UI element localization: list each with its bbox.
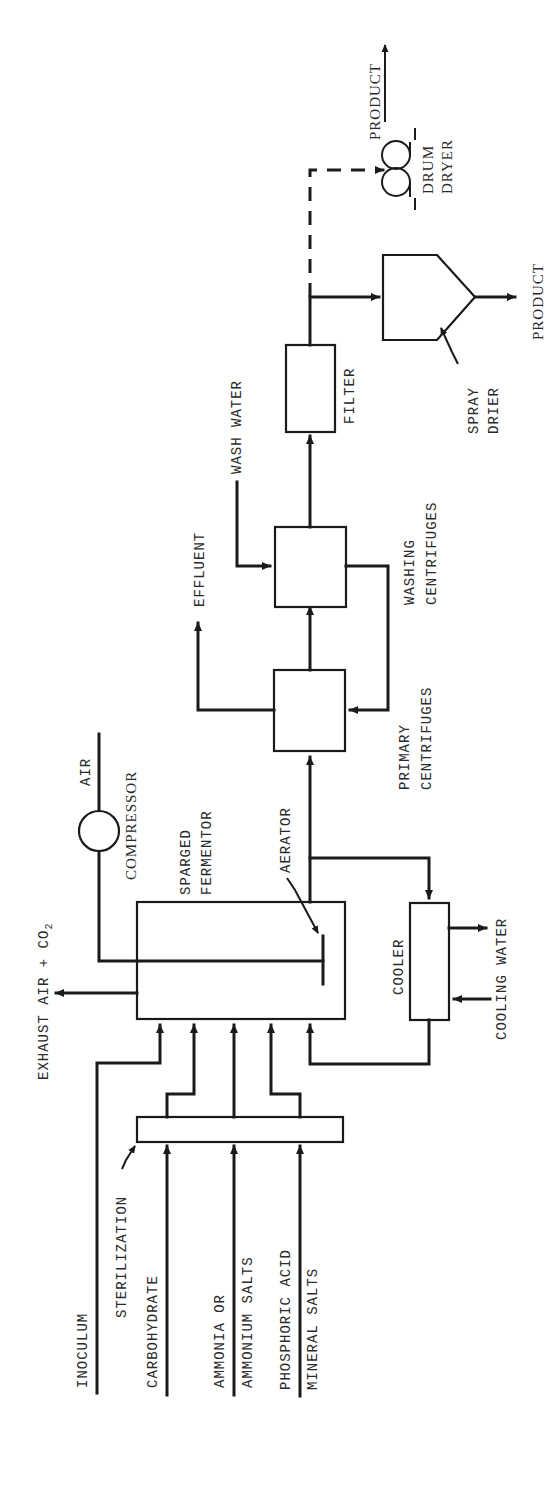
label-drier: DRIER <box>486 387 502 434</box>
label-cooler: COOLER <box>391 939 407 995</box>
label-carbohydrate: CARBOHYDRATE <box>145 1275 161 1388</box>
label-washing-centrifuges: CENTRIFUGES <box>424 502 440 605</box>
sterilization-unit <box>137 1117 343 1142</box>
cooling-water-lines <box>449 928 490 999</box>
label-washing: WASHING <box>402 539 418 605</box>
label-wash-water: WASH WATER <box>229 380 245 474</box>
spray-drier-leader <box>441 328 458 364</box>
label-sterilization: STERILIZATION <box>114 1196 130 1318</box>
filter <box>286 345 335 432</box>
label-aerator: AERATOR <box>278 807 294 873</box>
filter-to-drum-dryer-dashed-line <box>310 170 383 297</box>
cooler-return-line <box>310 1020 429 1064</box>
washing-recycle-line <box>346 566 388 710</box>
effluent-line <box>198 623 274 710</box>
label-compressor: COMPRESSOR <box>123 771 139 880</box>
primary-centrifuges <box>274 670 345 751</box>
spray-drier <box>383 255 475 340</box>
label-spray: SPRAY <box>466 387 482 434</box>
label-effluent: EFFLUENT <box>192 532 208 607</box>
label-dryer: DRYER <box>439 139 455 194</box>
cooler <box>410 903 449 1020</box>
label-primary-centrifuges: CENTRIFUGES <box>419 687 435 790</box>
label-ammonium-salts: AMMONIUM SALTS <box>240 1256 256 1388</box>
label-sparged: SPARGED <box>178 829 194 895</box>
label-product-spray: PRODUCT <box>530 263 546 340</box>
label-drum: DRUM <box>420 145 436 194</box>
label-exhaust: EXHAUST AIR + CO2 <box>36 923 55 1080</box>
sterilized-feed-lines <box>167 1025 300 1117</box>
sterilization-leader <box>122 1146 135 1169</box>
filter-to-drier-line <box>310 297 379 345</box>
label-product-drum: PRODUCT <box>367 63 383 140</box>
label-filter: FILTER <box>342 368 358 424</box>
label-air: AIR <box>78 758 94 786</box>
drum-dryer <box>382 128 415 210</box>
label-ammonia-or: AMMONIA OR <box>212 1294 228 1388</box>
label-cooling-water: COOLING WATER <box>494 918 510 1040</box>
process-flow-diagram: INOCULUM STERILIZATION CARBOHYDRATE AMMO… <box>0 0 558 1491</box>
wash-water-line <box>237 482 270 566</box>
label-fermentor: FERMENTOR <box>199 810 215 895</box>
label-mineral-salts: MINERAL SALTS <box>305 1268 321 1390</box>
compressor <box>79 811 119 851</box>
label-phosphoric-acid: PHOSPHORIC ACID <box>278 1249 294 1390</box>
washing-centrifuges <box>275 527 346 607</box>
label-inoculum: INOCULUM <box>75 1313 91 1388</box>
label-primary: PRIMARY <box>397 724 413 790</box>
